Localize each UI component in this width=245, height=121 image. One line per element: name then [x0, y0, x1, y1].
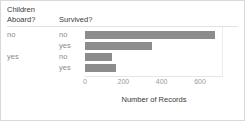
x-axis-line: [85, 76, 223, 77]
x-axis-tick-label: 400: [156, 78, 168, 86]
row-label: no: [59, 30, 67, 39]
bar[interactable]: [85, 64, 116, 72]
row-label: yes: [59, 41, 71, 50]
bar[interactable]: [85, 42, 152, 50]
group-label: yes: [7, 52, 19, 61]
row-label: yes: [59, 63, 71, 72]
bar[interactable]: [85, 53, 112, 61]
group-label: no: [7, 30, 15, 39]
bar-chart-panel: Children Aboard? Survived? noyes noyesno…: [0, 0, 245, 121]
x-axis-tick-label: 200: [117, 78, 129, 86]
column-header-children-aboard: Children Aboard?: [7, 5, 59, 24]
x-axis-tick-label: 600: [194, 78, 206, 86]
bar[interactable]: [85, 31, 215, 39]
row-label: no: [59, 52, 67, 61]
x-axis-title: Number of Records: [85, 95, 223, 104]
plot-area: [85, 28, 223, 75]
column-header-survived: Survived?: [59, 15, 119, 25]
x-axis-tick-label: 0: [83, 78, 87, 86]
header-divider: [7, 26, 238, 27]
